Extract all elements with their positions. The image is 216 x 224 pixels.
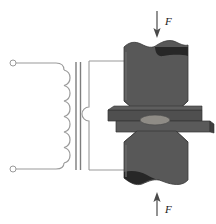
workpiece-sheets [108,106,214,133]
upper-electrode [124,41,188,112]
force-arrow-bottom-label: F [164,203,172,215]
transformer-core [76,62,81,170]
force-arrow-top-label: F [164,15,172,27]
primary-lead-bottom [16,163,64,169]
primary-terminal-bottom-icon [10,166,16,172]
primary-lead-top [16,63,64,70]
upper-sheet-top-face [108,106,202,110]
primary-coil-turns [64,70,70,163]
spot-welding-figure: F F [0,0,216,224]
force-arrow-top: F [153,11,172,38]
lower-electrode [124,131,188,185]
transformer-primary [10,60,70,172]
weld-nugget [140,115,170,125]
secondary-turn [82,61,89,170]
force-arrow-bottom: F [153,192,172,216]
figure-canvas: F F [0,0,216,224]
primary-terminal-top-icon [10,60,16,66]
lower-sheet-end-face [210,121,214,133]
